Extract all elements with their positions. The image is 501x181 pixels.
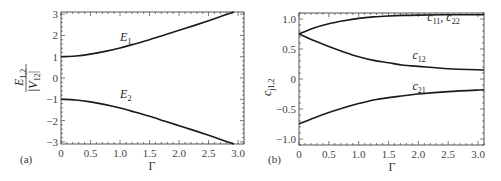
x-tick-label: 2.0 [411,148,425,160]
x-axis-label: Γ [149,159,156,173]
y-axis-label: cj1,2 [260,78,276,96]
x-tick-label: 1.0 [113,147,127,159]
y-tick-label: 0 [291,73,297,85]
y-tick-label: 1 [53,51,59,63]
y-tick-label: 2 [53,29,59,41]
x-tick-label: 1.5 [143,147,157,159]
y-tick-label: 0 [53,72,59,84]
panel-label: (a) [20,153,33,166]
x-tick-label: 3.0 [231,147,245,159]
curve-label: c12 [412,48,425,64]
curve-label: E1 [119,30,131,46]
curve-label: c21 [412,79,425,95]
x-tick-label: 0 [296,148,302,160]
y-tick-label: −1 [46,93,58,105]
y-tick-label: 0.5 [282,43,296,55]
x-tick-label: 2.5 [441,148,455,160]
curve-c21 [299,90,484,124]
x-tick-label: 2.0 [172,147,186,159]
y-tick-label: 3 [53,8,59,20]
x-tick-label: 0.5 [84,147,98,159]
y-tick-label: −0.5 [276,103,296,115]
x-axis-label: Γ [389,160,396,174]
curve-e2 [61,99,234,144]
y-label-text: cj1,2 [260,78,276,96]
y-tick-label: −2 [46,115,58,127]
x-tick-label: 3.0 [471,148,485,160]
x-tick-label: 0 [58,147,64,159]
x-tick-label: 0.5 [322,148,336,160]
curve-e1 [61,12,234,57]
x-tick-label: 2.5 [202,147,216,159]
x-tick-label: 1.5 [382,148,396,160]
y-label-denominator: |V12| [26,71,42,92]
panel-label: (b) [268,153,281,166]
x-tick-label: 1.0 [352,148,366,160]
curve-label: E2 [119,87,131,103]
y-tick-label: −3 [46,136,58,148]
curve-c12 [299,34,484,70]
panel-a-energy-plot: 00.51.01.52.02.53.03210−1−2−3(a)ΓE1,2|V1… [12,8,245,173]
panel-b-coefficient-plot: 00.51.01.52.02.53.01.00.50−0.5−1.0(b)Γcj… [260,10,485,174]
y-tick-label: −1.0 [276,133,296,145]
y-axis-label: E1,2|V12| [12,64,42,92]
figure: 00.51.01.52.02.53.03210−1−2−3(a)ΓE1,2|V1… [0,0,501,181]
plot-frame [61,12,244,144]
plot-frame [299,13,484,145]
y-tick-label: 1.0 [282,13,296,25]
